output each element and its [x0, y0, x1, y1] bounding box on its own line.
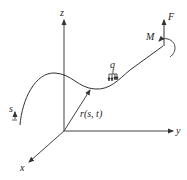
x-axis: [29, 131, 64, 162]
end-moment-label: M: [145, 31, 155, 42]
rod-diagram: z y x r(s, t) s q F M: [0, 0, 187, 180]
position-vector-label: r(s, t): [80, 108, 103, 120]
distributed-load-label: q: [110, 59, 115, 70]
end-moment-arrow: [159, 39, 175, 57]
end-force-label: F: [167, 11, 175, 22]
x-axis-label: x: [19, 162, 25, 173]
z-axis-label: z: [59, 7, 64, 18]
y-axis-label: y: [175, 125, 181, 136]
diagram-svg: z y x r(s, t) s q F M: [0, 0, 187, 180]
arc-length-label: s: [9, 103, 13, 114]
distributed-load-icon: [108, 70, 118, 81]
